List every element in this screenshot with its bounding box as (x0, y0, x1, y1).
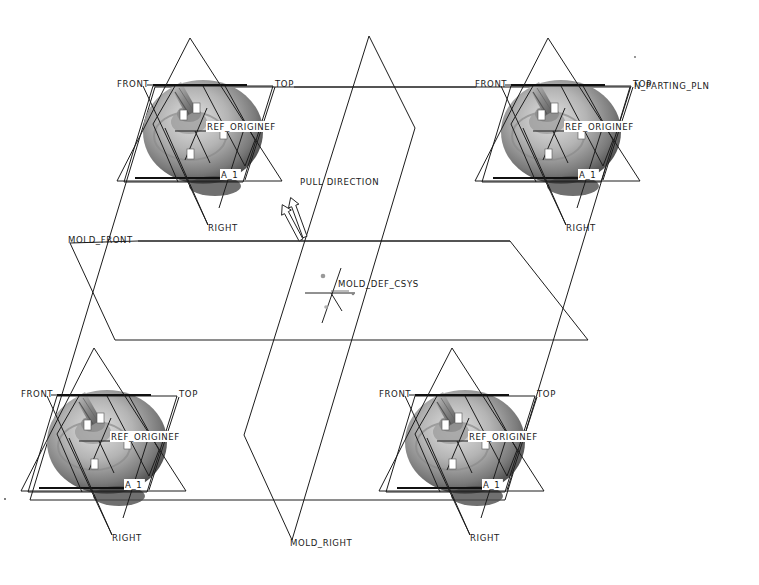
datum-label-axis[interactable]: A_1 (221, 169, 238, 180)
pull-direction-label: PULL DIRECTION (300, 176, 379, 187)
datum-label-right[interactable]: RIGHT (566, 222, 596, 233)
mold-def-csys[interactable]: MOLD_DEF_CSYS (305, 268, 419, 323)
axis-tag-icon (91, 459, 98, 469)
axis-tag-icon (180, 110, 187, 120)
datum-label-front[interactable]: FRONT (117, 78, 149, 89)
datum-label-ref_origin[interactable]: REF_ORIGINEF (111, 431, 180, 442)
axis-tag-icon (187, 149, 194, 159)
cavity-layout[interactable]: FRONTTOPREF_ORIGINEFA_1RIGHTFRONTTOPREF_… (21, 38, 652, 543)
axis-tag-icon (97, 413, 104, 423)
stray-point (4, 498, 6, 500)
datum-label-front[interactable]: FRONT (475, 78, 507, 89)
model-canvas[interactable]: N_PARTING_PLN MOLD_FRONT MOLD_RIGHT FRON… (0, 0, 759, 585)
pull-direction-arrow-icon[interactable] (282, 198, 307, 241)
axis-tag-icon (551, 103, 558, 113)
axis-tag-icon (449, 459, 456, 469)
datum-label-front[interactable]: FRONT (379, 388, 411, 399)
datum-label-top[interactable]: TOP (536, 388, 556, 399)
axis-tag-icon (84, 420, 91, 430)
axis-tag-icon (455, 413, 462, 423)
cavity-bottom-right[interactable]: FRONTTOPREF_ORIGINEFA_1RIGHT (379, 348, 556, 543)
datum-label-ref_origin[interactable]: REF_ORIGINEF (565, 121, 634, 132)
stray-point (634, 56, 636, 58)
datum-label-ref_origin[interactable]: REF_ORIGINEF (207, 121, 276, 132)
mold-right-label[interactable]: MOLD_RIGHT (290, 537, 353, 548)
datum-label-front[interactable]: FRONT (21, 388, 53, 399)
datum-label-top[interactable]: TOP (632, 78, 652, 89)
cavity-top-left[interactable]: FRONTTOPREF_ORIGINEFA_1RIGHT (117, 38, 294, 233)
datum-label-axis[interactable]: A_1 (483, 479, 500, 490)
axis-tag-icon (442, 420, 449, 430)
coordinate-system-icon[interactable] (305, 268, 355, 323)
datum-label-top[interactable]: TOP (178, 388, 198, 399)
datum-label-right[interactable]: RIGHT (112, 532, 142, 543)
graphics-viewport[interactable]: N_PARTING_PLN MOLD_FRONT MOLD_RIGHT FRON… (0, 0, 759, 585)
datum-label-right[interactable]: RIGHT (470, 532, 500, 543)
cavity-bottom-left[interactable]: FRONTTOPREF_ORIGINEFA_1RIGHT (21, 348, 198, 543)
datum-label-top[interactable]: TOP (274, 78, 294, 89)
datum-label-axis[interactable]: A_1 (125, 479, 142, 490)
mold-front-plane[interactable]: MOLD_FRONT (68, 234, 588, 340)
mold-front-label[interactable]: MOLD_FRONT (68, 234, 133, 245)
axis-tag-icon (538, 110, 545, 120)
cavity-top-right[interactable]: FRONTTOPREF_ORIGINEFA_1RIGHT (475, 38, 652, 233)
pull-direction[interactable]: PULL DIRECTION (282, 176, 380, 241)
axis-tag-icon (545, 149, 552, 159)
csys-label[interactable]: MOLD_DEF_CSYS (338, 278, 419, 289)
axis-tag-icon (193, 103, 200, 113)
datum-label-ref_origin[interactable]: REF_ORIGINEF (469, 431, 538, 442)
datum-label-axis[interactable]: A_1 (579, 169, 596, 180)
datum-label-right[interactable]: RIGHT (208, 222, 238, 233)
